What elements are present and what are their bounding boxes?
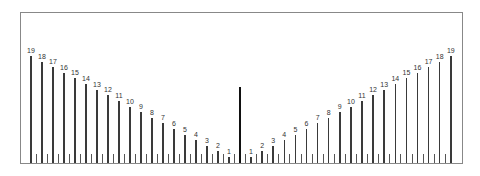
- bar-label: 14: [391, 75, 399, 82]
- minor-tick: [289, 154, 290, 163]
- minor-tick: [223, 154, 224, 163]
- minor-tick: [356, 154, 357, 163]
- bar-right-15: [406, 78, 408, 163]
- bar-left-13: [96, 90, 98, 163]
- bar-right-6: [306, 129, 308, 163]
- bar-label: 4: [282, 131, 286, 138]
- bar-right-8: [328, 118, 330, 163]
- minor-tick: [157, 154, 158, 163]
- bar-left-18: [41, 62, 43, 163]
- bar-right-16: [417, 73, 419, 163]
- bar-label: 17: [49, 58, 57, 65]
- bar-left-19: [30, 56, 32, 163]
- bar-label: 12: [104, 86, 112, 93]
- bar-label: 3: [205, 137, 209, 144]
- minor-tick: [334, 154, 335, 163]
- bar-right-14: [395, 84, 397, 163]
- minor-tick: [389, 154, 390, 163]
- bar-label: 10: [347, 98, 355, 105]
- bar-label: 8: [150, 109, 154, 116]
- center-line: [239, 87, 241, 163]
- minor-tick: [367, 154, 368, 163]
- bar-right-13: [383, 90, 385, 163]
- bar-right-12: [372, 95, 374, 163]
- minor-tick: [256, 154, 257, 163]
- bar-left-16: [63, 73, 65, 163]
- bar-left-12: [107, 95, 109, 163]
- bar-label: 17: [425, 58, 433, 65]
- minor-tick: [113, 154, 114, 163]
- bar-label: 8: [327, 109, 331, 116]
- bar-right-9: [339, 112, 341, 163]
- minor-tick: [102, 154, 103, 163]
- bar-left-4: [195, 140, 197, 163]
- bar-label: 6: [172, 120, 176, 127]
- bar-left-14: [85, 84, 87, 163]
- bar-label: 4: [194, 131, 198, 138]
- bar-label: 16: [60, 64, 68, 71]
- bar-label: 5: [183, 126, 187, 133]
- minor-tick: [267, 154, 268, 163]
- minor-tick: [278, 154, 279, 163]
- minor-tick: [412, 154, 413, 163]
- bar-label: 16: [414, 64, 422, 71]
- bar-right-1: [250, 157, 252, 163]
- bar-right-17: [428, 67, 430, 163]
- minor-tick: [69, 154, 70, 163]
- bar-left-9: [140, 112, 142, 163]
- bar-left-6: [173, 129, 175, 163]
- bar-label: 3: [271, 137, 275, 144]
- bar-label: 19: [447, 47, 455, 54]
- bar-label: 10: [126, 98, 134, 105]
- bar-left-10: [129, 107, 131, 164]
- frame-right: [462, 12, 463, 164]
- bar-left-1: [228, 157, 230, 163]
- minor-tick: [312, 154, 313, 163]
- bar-label: 5: [293, 126, 297, 133]
- bar-left-11: [118, 101, 120, 163]
- frame-left: [20, 12, 21, 164]
- minor-tick: [345, 154, 346, 163]
- minor-tick: [190, 154, 191, 163]
- bar-label: 7: [316, 114, 320, 121]
- minor-tick: [245, 154, 246, 163]
- bar-label: 6: [305, 120, 309, 127]
- minor-tick: [179, 154, 180, 163]
- bar-label: 18: [436, 53, 444, 60]
- minor-tick: [434, 154, 435, 163]
- bar-label: 18: [38, 53, 46, 60]
- bar-label: 13: [380, 81, 388, 88]
- minor-tick: [146, 154, 147, 163]
- bar-left-5: [184, 135, 186, 163]
- bar-label: 15: [71, 69, 79, 76]
- bar-label: 12: [369, 86, 377, 93]
- minor-tick: [80, 154, 81, 163]
- minor-tick: [378, 154, 379, 163]
- minor-tick: [135, 154, 136, 163]
- bar-label: 11: [358, 92, 365, 99]
- bar-right-5: [295, 135, 297, 163]
- minor-tick: [212, 154, 213, 163]
- minor-tick: [168, 154, 169, 163]
- minor-tick: [323, 154, 324, 163]
- minor-tick: [201, 154, 202, 163]
- bar-right-2: [261, 151, 263, 163]
- minor-tick: [445, 154, 446, 163]
- minor-tick: [423, 154, 424, 163]
- bar-left-3: [206, 146, 208, 163]
- bar-left-15: [74, 78, 76, 163]
- minor-tick: [124, 154, 125, 163]
- frame-top: [20, 12, 463, 13]
- minor-tick: [234, 154, 235, 163]
- bar-label: 9: [338, 103, 342, 110]
- bar-left-7: [162, 123, 164, 163]
- bar-right-3: [272, 146, 274, 163]
- bar-right-19: [450, 56, 452, 163]
- minor-tick: [400, 154, 401, 163]
- bar-label: 14: [82, 75, 90, 82]
- bar-right-4: [284, 140, 286, 163]
- bar-label: 13: [93, 81, 101, 88]
- baseline: [20, 163, 463, 164]
- bar-label: 19: [27, 47, 35, 54]
- bar-label: 7: [161, 114, 165, 121]
